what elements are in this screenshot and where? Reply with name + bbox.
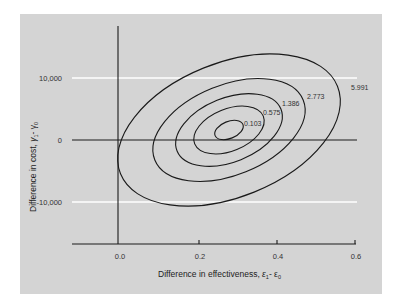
contour-label-5.991: 5.991	[351, 84, 369, 91]
contour-2.773	[138, 58, 320, 201]
y-tick-label-10000: 10,000	[39, 74, 62, 83]
contour-label-1.386: 1.386	[282, 100, 300, 107]
contour-label-2.773: 2.773	[307, 93, 325, 100]
x-axis-label: Difference in effectiveness, ε1- ε0	[158, 269, 281, 280]
x-tick-label-0.0: 0.0	[115, 252, 125, 261]
x-tick-label-0.2: 0.2	[195, 252, 205, 261]
x-tick-label-0.4: 0.4	[273, 252, 283, 261]
x-tick-label-0.6: 0.6	[351, 252, 361, 261]
contour-ellipses	[95, 24, 362, 236]
y-axis-label: Difference in cost, γ1- γ0	[28, 122, 39, 212]
y-tick-label-neg10000: -10,000	[37, 198, 62, 207]
contour-label-0.575: 0.575	[263, 109, 281, 116]
contour-label-0.103: 0.103	[244, 120, 262, 127]
y-tick-label-0: 0	[58, 136, 62, 145]
contour-chart: 0.103 0.575 1.386 2.773 5.991 10,000 0 -…	[0, 0, 395, 304]
contour-1.386	[165, 79, 293, 180]
contour-0.575	[187, 97, 271, 164]
contour-5.991	[95, 24, 362, 236]
